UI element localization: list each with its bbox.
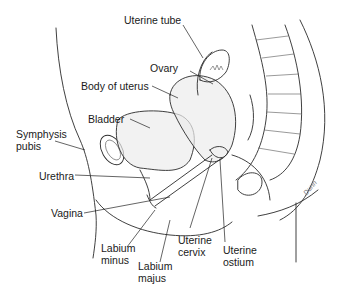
- anatomy-diagram: Uterine tube Ovary Body of uterus Bladde…: [0, 0, 349, 300]
- perineum-outline: [96, 200, 232, 236]
- label-body-of-uterus: Body of uterus: [81, 80, 149, 92]
- label-urethra: Urethra: [39, 170, 74, 182]
- label-labium-majus: Labium majus: [138, 260, 172, 284]
- anus-shape: [238, 173, 262, 196]
- label-bladder: Bladder: [88, 113, 124, 125]
- label-symphysis-pubis: Symphysis pubis: [16, 128, 67, 152]
- label-uterine-tube: Uterine tube: [124, 14, 181, 26]
- label-labium-minus: Labium minus: [101, 242, 135, 266]
- sacrum-back: [270, 25, 302, 180]
- label-vagina: Vagina: [51, 207, 83, 219]
- label-ovary: Ovary: [150, 62, 178, 74]
- sacrum-front: [236, 25, 267, 180]
- fimbriae: [210, 65, 223, 70]
- label-uterine-ostium: Uterine ostium: [223, 244, 257, 268]
- label-uterine-cervix: Uterine cervix: [178, 234, 212, 258]
- urethra-shape: [140, 170, 150, 200]
